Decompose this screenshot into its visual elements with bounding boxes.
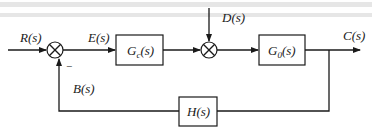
feedback-signal-label: B(s) [73, 81, 95, 96]
error-signal-label: E(s) [87, 30, 110, 45]
background-text-smudge [0, 13, 372, 17]
disturbance-summing-junction [201, 42, 217, 58]
block-diagram: R(s) − E(s) Gc(s) D(s) G0(s) C(s) H(s) B… [0, 0, 372, 139]
input-signal-label: R(s) [19, 30, 42, 45]
plant-block-label: G0(s) [268, 43, 296, 60]
input-summing-junction [47, 42, 63, 58]
controller-block-label: Gc(s) [127, 43, 154, 60]
output-signal-label: C(s) [343, 28, 365, 43]
feedback-block-label: H(s) [186, 104, 210, 119]
feedback-minus-sign: − [66, 60, 72, 72]
disturbance-label: D(s) [221, 10, 245, 25]
background-text-smudge [0, 2, 372, 7]
